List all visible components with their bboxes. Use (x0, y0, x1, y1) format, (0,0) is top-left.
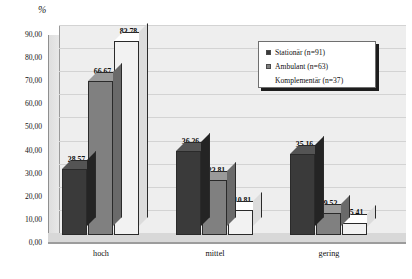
y-axis-tick-label: 20,00 (0, 191, 46, 200)
legend-shadow-right (376, 44, 379, 91)
y-axis-tick-label: 90,00 (0, 30, 46, 39)
legend-label: Komplementär (n=37) (275, 76, 343, 85)
y-axis-tick-label: 50,00 (0, 122, 46, 131)
bar-side-face (139, 23, 148, 226)
y-axis-tick-label: 30,00 (0, 168, 46, 177)
y-axis-tick-label: 70,00 (0, 76, 46, 85)
y-axis-tick-label: 60,00 (0, 99, 46, 108)
bar-side-face (87, 151, 96, 226)
y-axis-tick-label: 80,00 (0, 53, 46, 62)
legend-shadow-bottom (261, 88, 379, 91)
chart-legend: Stationär (n=91)Ambulant (n=63)Komplemen… (258, 41, 376, 88)
bar[interactable] (290, 145, 324, 235)
legend-label: Stationär (n=91) (275, 48, 325, 57)
legend-swatch-icon (266, 78, 271, 83)
y-axis-tick-label: 0,00 (0, 238, 46, 247)
legend-item[interactable]: Ambulant (n=63) (266, 60, 328, 73)
y-axis-tick-label: 10,00 (0, 214, 46, 223)
bar-chart: % 0,0010,0020,0030,0040,0050,0060,0070,0… (0, 0, 412, 279)
legend-item[interactable]: Stationär (n=91) (266, 46, 325, 59)
bar-front-face (290, 154, 315, 235)
bar[interactable] (176, 142, 210, 235)
y-axis-tick-labels: 0,0010,0020,0030,0040,0050,0060,0070,008… (0, 0, 46, 279)
bar-side-face (227, 162, 236, 226)
legend-item[interactable]: Komplementär (n=37) (266, 74, 343, 87)
legend-swatch-icon (266, 64, 271, 69)
legend-label: Ambulant (n=63) (275, 62, 328, 71)
bar-side-face (367, 205, 376, 227)
y-axis-tick-label: 40,00 (0, 145, 46, 154)
bar-side-face (341, 195, 350, 226)
x-axis-category-label: gering (319, 249, 340, 258)
bar-side-face (253, 192, 262, 226)
bar-side-face (201, 133, 210, 226)
bar[interactable] (62, 160, 96, 235)
bar-side-face (315, 136, 324, 226)
bar-side-face (113, 63, 122, 226)
bar-front-face (62, 169, 87, 235)
bar-front-face (176, 151, 201, 235)
x-axis-category-label: mittel (205, 249, 224, 258)
x-axis-category-label: hoch (93, 249, 109, 258)
legend-swatch-icon (266, 50, 271, 55)
